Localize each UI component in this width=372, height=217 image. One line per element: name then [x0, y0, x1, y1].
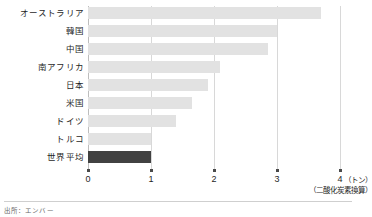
- x-tick-mark-4: [339, 169, 342, 172]
- x-axis: 01234（トン）（二酸化炭素換算）: [88, 169, 340, 195]
- x-tick-mark-3: [276, 169, 279, 172]
- bar-row: [88, 97, 340, 109]
- bar-6: [88, 97, 192, 109]
- gridline-4: [340, 6, 341, 169]
- x-axis-unit-sublabel: （二酸化炭素換算）: [309, 184, 372, 195]
- bar-9: [88, 151, 151, 163]
- x-tick-label-3: 3: [274, 174, 279, 184]
- bar-row: [88, 115, 340, 127]
- bar-1: [88, 7, 321, 19]
- category-label-2: 韓国: [0, 25, 84, 37]
- category-axis-labels: オーストラリア韓国中国南アフリカ日本米国ドイツトルコ世界平均: [0, 6, 84, 169]
- x-tick-mark-2: [213, 169, 216, 172]
- footer-divider: [4, 201, 352, 202]
- x-tick-label-4: 4: [337, 174, 342, 184]
- category-label-7: ドイツ: [0, 115, 84, 127]
- bar-series: [88, 6, 340, 169]
- bar-3: [88, 43, 268, 55]
- bar-row: [88, 151, 340, 163]
- category-label-4: 南アフリカ: [0, 61, 84, 73]
- x-tick-label-0: 0: [85, 174, 90, 184]
- bar-row: [88, 133, 340, 145]
- bar-5: [88, 79, 208, 91]
- bar-row: [88, 43, 340, 55]
- x-tick-mark-0: [87, 169, 90, 172]
- category-label-8: トルコ: [0, 133, 84, 145]
- x-tick-label-2: 2: [211, 174, 216, 184]
- bar-row: [88, 79, 340, 91]
- bar-row: [88, 25, 340, 37]
- bar-8: [88, 133, 151, 145]
- category-label-3: 中国: [0, 43, 84, 55]
- bar-row: [88, 7, 340, 19]
- source-note: 出所：エンバー: [4, 205, 54, 215]
- category-label-1: オーストラリア: [0, 7, 84, 19]
- category-label-5: 日本: [0, 79, 84, 91]
- bar-4: [88, 61, 220, 73]
- plot-area: [88, 6, 340, 169]
- bar-7: [88, 115, 176, 127]
- x-tick-label-1: 1: [148, 174, 153, 184]
- category-label-9: 世界平均: [0, 151, 84, 163]
- bar-row: [88, 61, 340, 73]
- category-label-6: 米国: [0, 97, 84, 109]
- bar-2: [88, 25, 277, 37]
- x-tick-mark-1: [150, 169, 153, 172]
